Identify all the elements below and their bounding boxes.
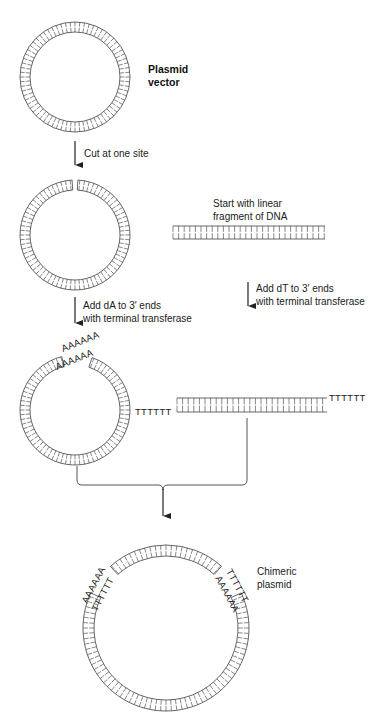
label-linear-line1: Start with linear: [213, 198, 287, 211]
label-dT-line1: Add dT to 3′ ends: [256, 283, 365, 296]
label-cut-step: Cut at one site: [84, 148, 148, 161]
label-dT-line2: with terminal transferase: [256, 296, 365, 309]
diagram-canvas: AAAAAA AAAAAA TTTTTT TTTTTT AAAAAA TTTTT…: [0, 0, 386, 720]
poly-T-tail-right: TTTTTT: [329, 392, 366, 403]
dA-tailed-plasmid-icon: [20, 357, 130, 465]
join-bracket: [77, 418, 247, 490]
cut-plasmid-icon: [20, 180, 130, 290]
label-chimeric-line1: Chimeric: [257, 566, 296, 579]
label-add-dT-step: Add dT to 3′ ends with terminal transfer…: [256, 283, 365, 308]
plasmid-vector-icon: [20, 22, 130, 132]
label-linear-fragment: Start with linear fragment of DNA: [213, 198, 287, 223]
label-add-dA-step: Add dA to 3′ ends with terminal transfer…: [83, 300, 192, 325]
poly-A-tail-inner: AAAAAA: [54, 347, 95, 372]
label-dA-line1: Add dA to 3′ ends: [83, 300, 192, 313]
label-plasmid-line1: Plasmid: [148, 63, 188, 76]
poly-T-tail-left: TTTTTT: [135, 406, 172, 417]
dT-tailed-fragment-icon: [177, 398, 327, 412]
label-chimeric-line2: plasmid: [257, 579, 296, 592]
chimeric-plasmid-icon: [83, 545, 249, 711]
linear-fragment-icon: [173, 226, 325, 239]
label-linear-line2: fragment of DNA: [213, 211, 287, 224]
label-dA-line2: with terminal transferase: [83, 313, 192, 326]
label-plasmid-vector: Plasmid vector: [148, 63, 188, 89]
label-vector-line2: vector: [148, 76, 188, 89]
label-chimeric-plasmid: Chimeric plasmid: [257, 566, 296, 591]
